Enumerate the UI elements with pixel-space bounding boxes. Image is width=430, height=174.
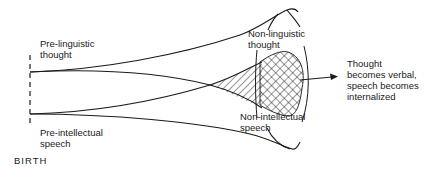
hatched-overlap-region	[210, 62, 262, 108]
non-linguistic-thought-boundary	[287, 10, 300, 27]
label-non-linguistic-thought: Non-linguistic thought	[248, 28, 305, 50]
label-pre-intellectual-speech: Pre-intellectual speech	[40, 127, 103, 149]
label-pre-linguistic-thought: Pre-linguistic thought	[40, 38, 94, 60]
crosshatched-region	[260, 52, 303, 116]
arrowhead-icon	[330, 74, 338, 81]
label-non-intellectual-speech: Non-intellectual speech	[240, 111, 305, 133]
label-birth: BIRTH	[14, 155, 47, 166]
label-outcome: Thought becomes verbal, speech becomes i…	[347, 58, 419, 102]
outcome-arrow-line	[300, 77, 332, 80]
